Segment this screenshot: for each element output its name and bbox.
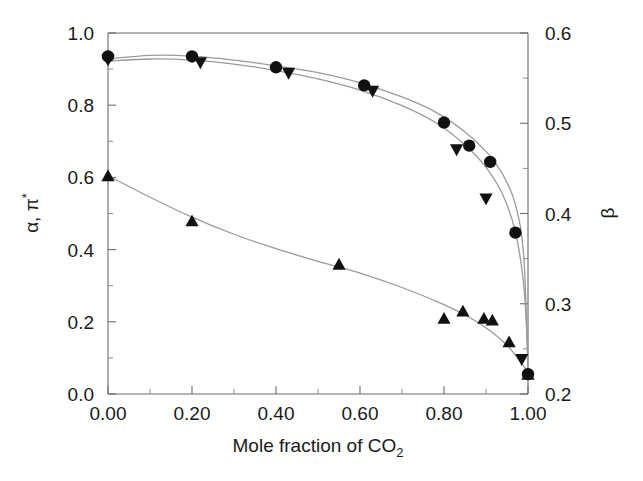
- right-tick-label: 0.5: [545, 113, 571, 134]
- data-point-beta: [437, 312, 450, 324]
- data-point-pi-star: [515, 354, 528, 366]
- svg-text:Mole fraction of CO2: Mole fraction of CO2: [233, 435, 404, 460]
- data-markers: [101, 50, 534, 380]
- bottom-axis-tick-labels: 0.000.200.400.600.801.00: [90, 403, 547, 424]
- left-tick-label: 0.6: [68, 167, 94, 188]
- data-point-beta: [503, 335, 516, 347]
- fit-curves: [108, 55, 528, 372]
- fit-curve-alpha-fit: [108, 55, 528, 372]
- left-tick-label: 0.8: [68, 95, 94, 116]
- right-axis-tick-labels: 0.20.30.40.50.6: [545, 23, 572, 405]
- fit-curve-beta-fit: [108, 176, 528, 373]
- left-tick-label: 0.0: [68, 384, 94, 405]
- left-axis-tick-labels: 0.00.20.40.60.81.0: [68, 23, 95, 405]
- data-point-alpha: [270, 61, 282, 73]
- right-tick-label: 0.6: [545, 23, 571, 44]
- data-point-alpha: [509, 226, 521, 238]
- left-axis-ticks: [108, 33, 116, 394]
- data-point-beta: [185, 214, 198, 226]
- chart-figure: 0.00.20.40.60.81.0 0.20.30.40.50.6 0.000…: [0, 0, 643, 481]
- right-tick-label: 0.3: [545, 294, 571, 315]
- left-tick-label: 1.0: [68, 23, 94, 44]
- bottom-tick-label: 0.40: [258, 403, 295, 424]
- data-point-pi-star: [194, 57, 207, 69]
- bottom-tick-label: 0.60: [342, 403, 379, 424]
- data-point-beta: [101, 169, 114, 181]
- data-point-pi-star: [450, 144, 463, 156]
- y-axis-title-left: α, π*: [19, 193, 42, 233]
- right-tick-label: 0.2: [545, 384, 571, 405]
- data-point-beta: [456, 305, 469, 317]
- bottom-tick-label: 1.00: [510, 403, 547, 424]
- left-tick-label: 0.4: [68, 240, 95, 261]
- scatter-plot: 0.00.20.40.60.81.0 0.20.30.40.50.6 0.000…: [0, 0, 643, 481]
- bottom-axis-ticks: [108, 386, 528, 394]
- left-tick-label: 0.2: [68, 312, 94, 333]
- right-tick-label: 0.4: [545, 204, 572, 225]
- y-axis-title-right: β: [597, 207, 618, 218]
- bottom-tick-label: 0.20: [174, 403, 211, 424]
- data-point-alpha: [463, 139, 475, 151]
- data-point-alpha: [484, 156, 496, 168]
- bottom-tick-label: 0.00: [90, 403, 127, 424]
- x-axis-title: Mole fraction of CO2: [233, 435, 404, 460]
- svg-text:α, π*: α, π*: [19, 193, 42, 233]
- data-point-alpha: [438, 116, 450, 128]
- bottom-tick-label: 0.80: [426, 403, 463, 424]
- svg-text:β: β: [597, 207, 618, 218]
- data-point-pi-star: [479, 193, 492, 205]
- data-point-beta: [332, 258, 345, 270]
- plot-frame: [108, 33, 528, 394]
